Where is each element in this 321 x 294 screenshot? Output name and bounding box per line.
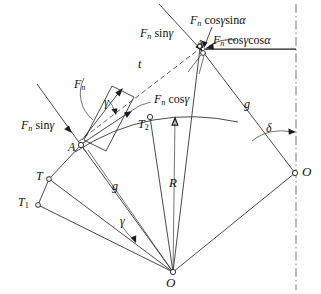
label-A-lower: A [68, 141, 75, 153]
label-g-right: g [244, 98, 250, 110]
label-fn-sin-gamma-left: Fn sinγ [21, 119, 54, 133]
label-R: R [169, 176, 177, 189]
delta-angle-arc [252, 131, 292, 141]
fn-sin-gamma-left-arrowhead [64, 125, 72, 133]
label-t: t [138, 58, 141, 70]
link-Obottom-Aupper [173, 48, 200, 272]
fn-cos-gamma-arrowhead [124, 111, 132, 118]
radius-R-line [173, 118, 175, 272]
label-T2: T2 [138, 118, 149, 132]
radius-Obottom-T2 [150, 117, 173, 272]
label-T: T [36, 170, 43, 182]
label-delta: δ [266, 122, 272, 134]
link-Oright-Obottom [173, 173, 295, 272]
fn-cos-gamma-leader [131, 102, 151, 111]
link-T-Obottom [49, 179, 173, 272]
label-gamma-upper: γ [104, 96, 109, 108]
figure-canvas: Fn sinγ Fn cosγsinα Fn cosγcosα A t Fn γ… [0, 0, 321, 294]
node-T [47, 177, 52, 182]
node-O-right [292, 170, 297, 175]
label-fn-cos-gamma: Fn cosγ [154, 93, 189, 107]
tool-path-arc [75, 117, 238, 152]
fn-vector-line [82, 91, 120, 140]
label-fn-cos-gamma-sin-alpha: Fn cosγsinα [190, 14, 245, 28]
gamma-angle-arrowhead-upper [111, 108, 117, 115]
link-T1-Obottom [38, 205, 173, 272]
diagram-svg [0, 0, 321, 294]
fan-line-upper-1 [188, 55, 201, 72]
label-fn-cos-gamma-cos-alpha: Fn cosγcosα [213, 34, 270, 48]
label-A-upper: A [196, 38, 203, 50]
label-fn-sin-gamma-top: Fn sinγ [140, 27, 173, 41]
fan-line-upper-2 [199, 56, 204, 74]
label-gamma-lower: γ [120, 215, 125, 227]
node-A-upper-secondary [201, 51, 206, 56]
label-fn: Fn [74, 78, 85, 92]
label-T1: T1 [18, 196, 29, 210]
link-Obottom-Alower [81, 145, 173, 272]
delta-angle-arrowhead [288, 129, 296, 135]
node-T1 [36, 203, 41, 208]
label-g-left: g [112, 180, 118, 192]
radius-aux-line [88, 150, 173, 272]
node-O-bottom [170, 269, 175, 274]
label-O-right: O [302, 165, 311, 178]
link-Alower-T [49, 145, 81, 179]
node-A-lower [78, 142, 83, 147]
label-O-bottom: O [166, 276, 175, 289]
